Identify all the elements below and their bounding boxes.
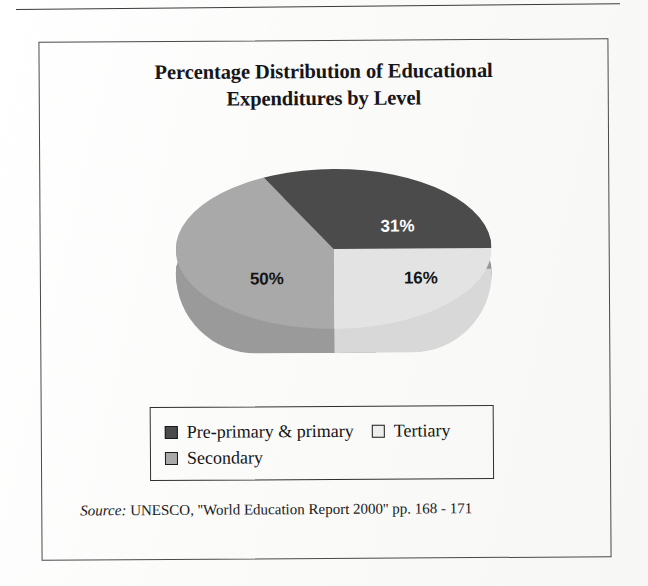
source-note: Source: UNESCO, ''World Education Report… [80,499,580,519]
legend-item-tertiary: Tertiary [372,417,451,444]
legend-item-pre-primary-primary: Pre-primary & primary [165,418,354,445]
legend-swatch-secondary [165,452,178,465]
legend-label-pre-primary-primary: Pre-primary & primary [187,418,354,445]
source-text: UNESCO, ''World Education Report 2000'' … [130,500,472,518]
legend-row-1: Pre-primary & primary Tertiary [165,417,493,445]
legend-row-2: Secondary [165,443,493,471]
legend-item-secondary: Secondary [165,444,263,471]
chart-title: Percentage Distribution of Educational E… [40,56,608,114]
pie-label-pre-primary-primary: 31% [380,216,414,236]
legend-label-tertiary: Tertiary [394,417,451,443]
source-label: Source: [80,502,126,518]
legend-swatch-pre-primary-primary [165,425,178,438]
pie-top-face [175,168,492,330]
legend-swatch-tertiary [372,424,385,437]
chart-title-line-2: Expenditures by Level [40,83,608,114]
chart-legend: Pre-primary & primary Tertiary Secondary [150,405,494,481]
pie-chart: 31% 16% 50% [175,168,492,362]
legend-label-secondary: Secondary [187,444,263,471]
figure-frame: Percentage Distribution of Educational E… [38,38,611,560]
pie-label-secondary: 50% [250,269,284,289]
chart-title-line-1: Percentage Distribution of Educational [155,59,493,83]
pie-label-tertiary: 16% [404,268,438,288]
